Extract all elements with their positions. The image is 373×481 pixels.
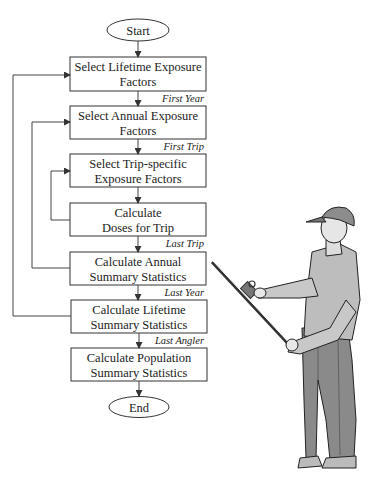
- right-shoe: [322, 456, 356, 468]
- step-label-line: Exposure Factors: [94, 172, 181, 186]
- step-label-line: Calculate Annual: [95, 255, 182, 269]
- start-terminal: Start: [107, 19, 169, 41]
- step-select-lifetime-factors: Select Lifetime Exposure Factors: [70, 57, 206, 91]
- arm: [258, 278, 318, 298]
- step-label-line: Calculate: [114, 206, 162, 220]
- cap-brim: [306, 217, 326, 222]
- end-label: End: [129, 401, 150, 415]
- step-label-line: Factors: [120, 124, 157, 138]
- angler-illustration: [212, 207, 360, 468]
- step-calculate-trip-doses: Calculate Doses for Trip: [70, 203, 206, 236]
- loop-trip: [51, 171, 70, 220]
- step-label-line: Doses for Trip: [102, 221, 174, 235]
- step-label-line: Select Trip-specific: [89, 157, 187, 171]
- condition-first-trip: First Trip: [162, 141, 204, 152]
- start-label: Start: [126, 24, 150, 38]
- step-label-line: Calculate Population: [87, 351, 192, 365]
- step-label-line: Summary Statistics: [90, 270, 187, 284]
- step-label-line: Select Annual Exposure: [78, 109, 199, 123]
- step-calculate-population-stats: Calculate Population Summary Statistics: [71, 348, 207, 381]
- step-label-line: Select Lifetime Exposure: [74, 60, 201, 74]
- condition-last-trip: Last Trip: [165, 238, 204, 249]
- loop-angler: [13, 75, 71, 316]
- step-label-line: Summary Statistics: [91, 366, 188, 380]
- step-calculate-annual-stats: Calculate Annual Summary Statistics: [70, 252, 206, 285]
- step-select-annual-factors: Select Annual Exposure Factors: [70, 106, 206, 139]
- step-calculate-lifetime-stats: Calculate Lifetime Summary Statistics: [71, 300, 207, 333]
- hand: [286, 339, 298, 351]
- step-label-line: Factors: [120, 75, 157, 89]
- step-select-trip-factors: Select Trip-specific Exposure Factors: [70, 154, 206, 187]
- condition-first-year: First Year: [161, 93, 205, 104]
- step-label-line: Calculate Lifetime: [92, 303, 186, 317]
- step-label-line: Summary Statistics: [91, 318, 188, 332]
- hand: [254, 288, 266, 298]
- condition-last-year: Last Year: [163, 287, 205, 298]
- fishing-rod-icon: [212, 261, 293, 348]
- condition-last-angler: Last Angler: [154, 335, 205, 346]
- flowchart-figure: Start Select Lifetime Exposure Factors S…: [0, 0, 373, 481]
- end-terminal: End: [109, 397, 169, 418]
- left-shoe: [298, 456, 322, 468]
